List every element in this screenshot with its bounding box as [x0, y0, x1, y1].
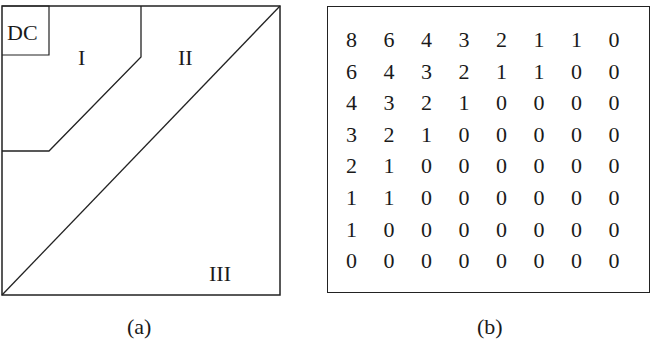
- matrix-cell: 0: [534, 92, 572, 124]
- matrix-cell: 2: [346, 155, 384, 187]
- matrix-cell: 1: [346, 219, 384, 251]
- matrix-cell: 1: [384, 155, 422, 187]
- caption-b: (b): [477, 316, 503, 338]
- matrix-cell: 0: [571, 219, 609, 251]
- matrix-cell: 0: [609, 29, 647, 61]
- matrix-cell: 0: [609, 187, 647, 219]
- region-iii-label: III: [209, 263, 231, 285]
- matrix-cell: 6: [346, 61, 384, 93]
- matrix-row: 21000000: [346, 155, 646, 187]
- matrix-cell: 0: [534, 187, 572, 219]
- matrix-cell: 0: [571, 61, 609, 93]
- matrix-row: 86432110: [346, 29, 646, 61]
- matrix-cell: 0: [571, 92, 609, 124]
- matrix-cell: 3: [459, 29, 497, 61]
- matrix-cell: 0: [534, 155, 572, 187]
- coefficient-matrix-panel: 8643211064321100432100003210000021000000…: [327, 6, 650, 293]
- matrix-cell: 0: [571, 124, 609, 156]
- matrix-cell: 0: [609, 61, 647, 93]
- region-i-label: I: [78, 47, 85, 69]
- matrix-cell: 1: [496, 61, 534, 93]
- matrix-cell: 3: [384, 92, 422, 124]
- caption-a: (a): [127, 316, 151, 338]
- matrix-cell: 0: [459, 187, 497, 219]
- dc-label: DC: [7, 22, 38, 44]
- matrix-cell: 0: [459, 124, 497, 156]
- matrix-cell: 4: [421, 29, 459, 61]
- matrix-cell: 2: [496, 29, 534, 61]
- matrix-row: 10000000: [346, 219, 646, 251]
- matrix-cell: 0: [496, 250, 534, 282]
- matrix-cell: 1: [384, 187, 422, 219]
- matrix-cell: 2: [459, 61, 497, 93]
- matrix-cell: 3: [421, 61, 459, 93]
- matrix-cell: 1: [459, 92, 497, 124]
- matrix-cell: 0: [421, 219, 459, 251]
- matrix-cell: 6: [384, 29, 422, 61]
- matrix-cell: 3: [346, 124, 384, 156]
- matrix-row: 64321100: [346, 61, 646, 93]
- matrix-cell: 0: [496, 124, 534, 156]
- matrix-cell: 0: [421, 155, 459, 187]
- coefficient-matrix: 8643211064321100432100003210000021000000…: [346, 29, 646, 282]
- matrix-cell: 1: [421, 124, 459, 156]
- region-ii-label: II: [178, 47, 193, 69]
- matrix-cell: 1: [346, 187, 384, 219]
- matrix-cell: 0: [534, 219, 572, 251]
- matrix-cell: 0: [459, 219, 497, 251]
- matrix-cell: 0: [609, 155, 647, 187]
- region-partition-lines: [0, 0, 290, 300]
- matrix-cell: 0: [459, 155, 497, 187]
- matrix-cell: 0: [346, 250, 384, 282]
- matrix-cell: 0: [496, 219, 534, 251]
- matrix-cell: 0: [384, 219, 422, 251]
- matrix-row: 11000000: [346, 187, 646, 219]
- matrix-cell: 0: [609, 219, 647, 251]
- matrix-cell: 0: [571, 155, 609, 187]
- matrix-cell: 0: [534, 124, 572, 156]
- matrix-cell: 0: [534, 250, 572, 282]
- matrix-cell: 0: [571, 187, 609, 219]
- matrix-cell: 1: [571, 29, 609, 61]
- matrix-cell: 0: [496, 187, 534, 219]
- matrix-cell: 0: [384, 250, 422, 282]
- matrix-cell: 1: [534, 29, 572, 61]
- matrix-row: 43210000: [346, 92, 646, 124]
- matrix-cell: 0: [609, 92, 647, 124]
- matrix-cell: 2: [384, 124, 422, 156]
- matrix-cell: 0: [496, 155, 534, 187]
- matrix-cell: 0: [421, 250, 459, 282]
- matrix-row: 32100000: [346, 124, 646, 156]
- matrix-cell: 1: [534, 61, 572, 93]
- matrix-cell: 0: [609, 124, 647, 156]
- matrix-cell: 4: [346, 92, 384, 124]
- matrix-cell: 0: [609, 250, 647, 282]
- matrix-cell: 4: [384, 61, 422, 93]
- matrix-cell: 0: [459, 250, 497, 282]
- dct-region-diagram: DC I II III: [0, 0, 290, 300]
- matrix-cell: 8: [346, 29, 384, 61]
- matrix-cell: 0: [496, 92, 534, 124]
- matrix-cell: 2: [421, 92, 459, 124]
- matrix-cell: 0: [421, 187, 459, 219]
- matrix-row: 00000000: [346, 250, 646, 282]
- matrix-cell: 0: [571, 250, 609, 282]
